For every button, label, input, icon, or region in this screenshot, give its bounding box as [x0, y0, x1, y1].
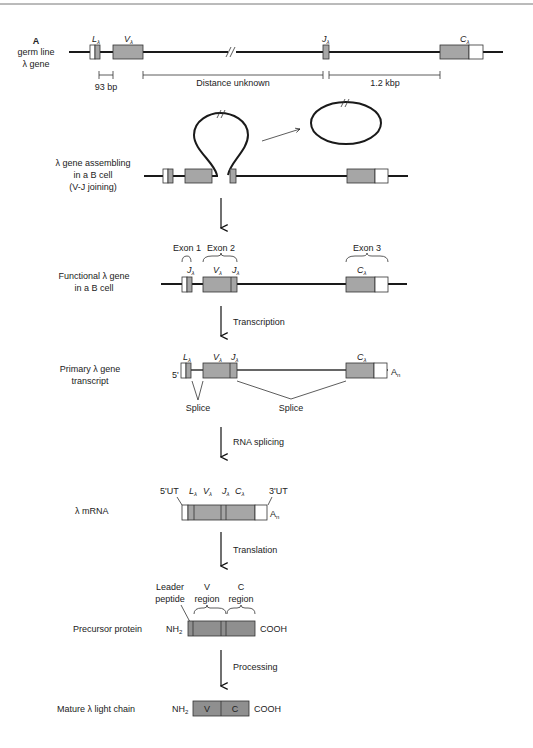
distance-lv: 93 bp: [95, 82, 118, 92]
distance-jc: 1.2 kbp: [370, 78, 400, 88]
dna-loop: [194, 113, 248, 175]
primary-transcript-row: Primary λ gene transcript 5' An Lλ Vλ Jλ…: [60, 352, 401, 457]
mature-c: C: [232, 704, 239, 714]
c-region-label-2: region: [228, 594, 253, 604]
mrna-seg-V: Vλ: [203, 486, 212, 497]
mature-label: Mature λ light chain: [57, 704, 135, 714]
excision-arrow: [262, 129, 300, 141]
seg-J1: Jλ: [186, 265, 195, 276]
assembling-label-3: (V-J joining): [69, 182, 117, 192]
exon1-label: Exon 1: [173, 243, 201, 253]
c-region-label-1: C: [238, 582, 245, 592]
seg-C: Cλ: [357, 352, 367, 363]
functional-row: Functional λ gene in a B cell Exon 1 Exo…: [58, 243, 407, 336]
C-utr-box: [469, 45, 483, 59]
mrna-label: λ mRNA: [75, 506, 109, 516]
precursor-row: Leader peptide V region C region Precurs…: [73, 582, 287, 686]
excised-circle: [311, 102, 381, 144]
mature-row: Mature λ light chain NH2 V C COOH: [57, 701, 281, 716]
primary-label-2: transcript: [71, 376, 109, 386]
splice-v-1: [192, 381, 203, 400]
precursor-label: Precursor protein: [73, 624, 142, 634]
V-exon-box: [113, 45, 143, 59]
assembling-label-1: λ gene assembling: [55, 158, 130, 168]
splice-v-2: [237, 381, 346, 399]
v-region-label-2: region: [194, 594, 219, 604]
five-prime-label: 5': [172, 370, 179, 380]
J-exon-box: [323, 45, 329, 59]
exon2-brace: [203, 253, 237, 262]
panel-label: A: [33, 36, 40, 46]
L-exon-box: [95, 45, 100, 59]
seg-V: Vλ: [213, 352, 222, 363]
exon3-brace: [346, 253, 388, 262]
primary-label-1: Primary λ gene: [60, 364, 121, 374]
precursor-cooh: COOH: [260, 624, 287, 634]
splice-label-1: Splice: [186, 403, 211, 413]
lambda-gene-diagram: A germ line λ gene Lλ Vλ Jλ Cλ 93 bp Dis…: [0, 0, 533, 748]
five-ut-label: 5'UT: [160, 486, 179, 496]
seg-C: Cλ: [357, 265, 367, 276]
germline-label-1: germ line: [17, 47, 54, 57]
distance-vj: Distance unknown: [196, 78, 270, 88]
seg-C: Cλ: [460, 34, 470, 45]
assembling-row: λ gene assembling in a B cell (V-J joini…: [55, 99, 408, 228]
L-utr-box: [90, 45, 95, 59]
mrna-row: λ mRNA 5'UT 3'UT An Lλ Vλ Jλ Cλ Translat…: [75, 486, 288, 566]
splice-label-2: Splice: [279, 403, 304, 413]
v-region-label-1: V: [204, 582, 210, 592]
seg-J2: Jλ: [231, 265, 240, 276]
precursor-box: [188, 621, 255, 636]
assembling-label-2: in a B cell: [73, 170, 112, 180]
mature-v: V: [204, 704, 210, 714]
C-exon-box: [440, 45, 469, 59]
leader-label-1: Leader: [156, 582, 184, 592]
step-processing: Processing: [233, 662, 278, 672]
functional-label-2: in a B cell: [74, 283, 113, 293]
step-transcription: Transcription: [233, 317, 285, 327]
seg-V: Vλ: [124, 34, 133, 45]
mature-nh2: NH2: [172, 704, 189, 715]
precursor-nh2: NH2: [166, 624, 183, 635]
v-region-brace: [194, 605, 226, 614]
exon3-label: Exon 3: [353, 243, 381, 253]
exon2-label: Exon 2: [207, 243, 235, 253]
germline-row: A germ line λ gene Lλ Vλ Jλ Cλ 93 bp Dis…: [17, 34, 503, 92]
seg-L: Lλ: [92, 34, 100, 45]
mature-cooh: COOH: [254, 704, 281, 714]
germline-label-2: λ gene: [22, 59, 49, 69]
mrna-seg-C: Cλ: [235, 486, 245, 497]
seg-V: Vλ: [213, 265, 222, 276]
leader-label-2: peptide: [155, 594, 185, 604]
mrna-seg-J: Jλ: [221, 486, 230, 497]
mrna-polyA: An: [270, 509, 279, 520]
functional-label-1: Functional λ gene: [58, 271, 129, 281]
seg-J: Jλ: [230, 352, 239, 363]
step-translation: Translation: [233, 545, 277, 555]
step-rna-splicing: RNA splicing: [233, 437, 284, 447]
seg-L: Lλ: [183, 352, 191, 363]
mrna-seg-L: Lλ: [189, 486, 197, 497]
polyA-label: An: [391, 367, 400, 378]
exon1-brace: [182, 256, 191, 262]
c-region-brace: [227, 605, 255, 614]
three-ut-label: 3'UT: [269, 486, 288, 496]
seg-J: Jλ: [321, 34, 330, 45]
